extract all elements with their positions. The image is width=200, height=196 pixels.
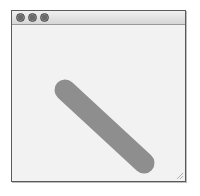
drawing-area[interactable] [12, 25, 185, 181]
drawing-canvas [12, 25, 185, 181]
diagonal-line-shape[interactable] [65, 90, 144, 163]
minimize-button[interactable] [28, 13, 37, 22]
maximize-button[interactable] [40, 13, 49, 22]
resize-grip-icon[interactable] [176, 172, 184, 180]
app-window [11, 10, 186, 182]
title-bar[interactable] [12, 11, 185, 25]
close-button[interactable] [16, 13, 25, 22]
